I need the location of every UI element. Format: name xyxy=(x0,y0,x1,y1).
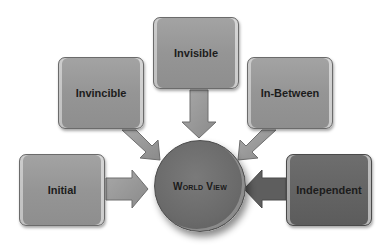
arrow-independent xyxy=(244,170,286,208)
node-in-between: In-Between xyxy=(247,57,333,129)
node-label: Invisible xyxy=(174,47,218,59)
node-invisible: Invisible xyxy=(153,17,239,89)
arrow-initial xyxy=(106,170,148,208)
arrow-invincible xyxy=(122,130,160,160)
center-node-world-view: World View xyxy=(154,140,246,232)
node-invincible: Invincible xyxy=(58,57,144,129)
node-label: In-Between xyxy=(261,87,320,99)
node-label: Initial xyxy=(48,184,77,196)
node-label: Independent xyxy=(296,184,361,196)
node-label: Invincible xyxy=(76,87,127,99)
node-independent: Independent xyxy=(286,154,372,226)
arrow-invisible xyxy=(182,90,216,138)
arrow-in-between xyxy=(238,130,276,160)
node-initial: Initial xyxy=(19,154,105,226)
center-label: World View xyxy=(173,181,227,192)
